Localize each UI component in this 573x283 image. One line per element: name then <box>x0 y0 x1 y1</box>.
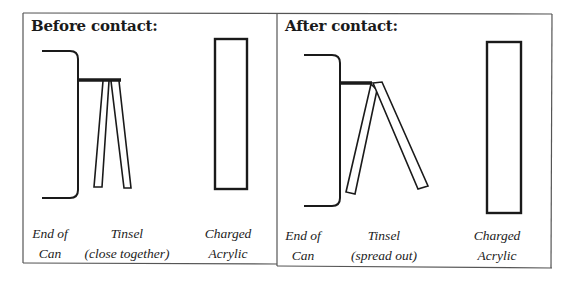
diagram: Before contact: After contact: End of Ca… <box>0 0 573 283</box>
after-acrylic-label: Charged Acrylic <box>474 226 521 266</box>
after-can-label: End of Can <box>285 226 321 266</box>
after-tinsel-label: Tinsel (spread out) <box>351 226 417 266</box>
before-tinsel-label: Tinsel (close together) <box>84 224 169 264</box>
before-panel-title: Before contact: <box>31 17 158 35</box>
after-tinsel-icon <box>340 82 428 194</box>
before-can-end-icon <box>42 51 78 198</box>
before-tinsel-icon <box>78 80 131 188</box>
before-acrylic-icon <box>215 39 247 189</box>
after-can-end-icon <box>304 55 340 206</box>
before-can-label: End of Can <box>32 224 68 264</box>
after-panel-title: After contact: <box>285 17 398 35</box>
after-acrylic-icon <box>487 42 521 213</box>
before-acrylic-label: Charged Acrylic <box>205 224 252 264</box>
